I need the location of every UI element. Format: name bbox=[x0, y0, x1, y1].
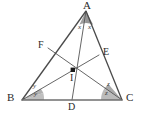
point-label-E: E bbox=[103, 47, 109, 57]
angle-label-apex-right: x bbox=[88, 24, 91, 31]
vertex-label-B: B bbox=[7, 92, 14, 103]
point-label-D: D bbox=[68, 102, 75, 112]
angle-label-base-left-upper: y bbox=[33, 83, 36, 90]
geometry-figure: A B C D E F I x x y y z z bbox=[0, 0, 143, 117]
angle-label-apex-left: x bbox=[78, 24, 81, 31]
angle-label-base-right-upper: z bbox=[107, 81, 110, 88]
triangle-diagram-svg bbox=[0, 0, 143, 117]
angle-label-base-left-lower: y bbox=[34, 91, 37, 98]
point-label-F: F bbox=[38, 40, 44, 50]
vertex-label-C: C bbox=[126, 92, 133, 103]
point-label-I: I bbox=[70, 73, 73, 83]
angle-label-base-right-lower: z bbox=[105, 90, 108, 97]
segment-side-AB bbox=[22, 11, 86, 100]
vertex-label-A: A bbox=[83, 0, 91, 11]
